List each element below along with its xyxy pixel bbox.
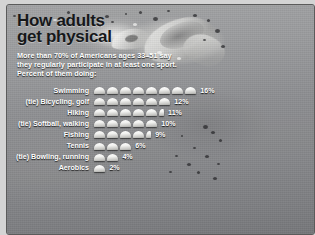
swim-cap-icon xyxy=(94,165,105,172)
swim-cap-icon xyxy=(120,109,131,116)
swim-cap-icon xyxy=(120,131,131,138)
swim-cap-icon xyxy=(94,120,105,127)
water-splash-dot xyxy=(153,17,158,21)
chart-row-value: 10% xyxy=(161,120,175,128)
chart-row: Hiking11% xyxy=(7,107,233,118)
water-splash-dot xyxy=(133,23,137,26)
chart-row: (tie) Bicycling, golf12% xyxy=(7,96,233,107)
water-splash-dot xyxy=(13,15,16,17)
water-splash-dot xyxy=(207,19,210,22)
chart-row: Fishing9% xyxy=(7,129,233,140)
poster-frame: How adults get physical More than 70% of… xyxy=(6,4,233,183)
chart-row-bar xyxy=(94,129,151,140)
swim-cap-icon xyxy=(94,143,105,150)
water-splash-dot xyxy=(203,39,206,41)
swim-cap-half-icon xyxy=(146,131,151,138)
chart-row: Swimming16% xyxy=(7,85,233,96)
swim-cap-icon xyxy=(185,87,196,94)
chart-row-bar xyxy=(94,85,196,96)
chart-row-label: Hiking xyxy=(7,109,94,117)
chart-row-label: Fishing xyxy=(7,131,94,139)
pictograph-chart: Swimming16%(tie) Bicycling, golf12%Hikin… xyxy=(7,85,233,174)
chart-row-bar xyxy=(94,163,105,174)
water-splash-dot xyxy=(193,14,197,17)
page-title: How adults get physical xyxy=(17,13,112,45)
swim-cap-icon xyxy=(94,131,105,138)
swim-cap-icon xyxy=(133,87,144,94)
water-splash-dot xyxy=(167,10,170,12)
chart-row-value: 16% xyxy=(200,87,214,95)
swim-cap-icon xyxy=(120,143,131,150)
chart-row-value: 2% xyxy=(109,164,119,172)
chart-row-value: 4% xyxy=(122,153,132,161)
swim-cap-icon xyxy=(107,109,118,116)
swim-cap-icon xyxy=(133,131,144,138)
water-splash-dot xyxy=(221,45,225,48)
chart-row: (tie) Softball, walking10% xyxy=(7,118,233,129)
swim-cap-icon xyxy=(120,87,131,94)
chart-row-bar xyxy=(94,141,131,152)
water-splash-dot xyxy=(213,177,217,180)
swim-cap-icon xyxy=(94,87,105,94)
chart-row-value: 6% xyxy=(135,142,145,150)
swim-cap-icon xyxy=(159,87,170,94)
chart-row-bar xyxy=(94,118,157,129)
swim-cap-icon xyxy=(107,131,118,138)
subtitle-text: More than 70% of Americans ages 33–51 sa… xyxy=(17,52,187,78)
swim-cap-icon xyxy=(120,120,131,127)
swim-cap-icon xyxy=(146,120,157,127)
swim-cap-icon xyxy=(120,98,131,105)
swim-cap-icon xyxy=(107,87,118,94)
swim-cap-icon xyxy=(159,98,170,105)
swim-cap-icon xyxy=(133,120,144,127)
swim-cap-icon xyxy=(146,87,157,94)
chart-row-label: (tie) Bowling, running xyxy=(7,153,94,161)
chart-row-label: (tie) Softball, walking xyxy=(7,120,94,128)
chart-row-value: 9% xyxy=(155,131,165,139)
chart-row-label: Aerobics xyxy=(7,164,94,172)
infographic-poster: How adults get physical More than 70% of… xyxy=(0,0,233,183)
swim-cap-icon xyxy=(107,143,118,150)
chart-row-bar xyxy=(94,96,170,107)
chart-row-label: (tie) Bicycling, golf xyxy=(7,98,94,106)
chart-row-label: Tennis xyxy=(7,142,94,150)
swim-cap-icon xyxy=(172,87,183,94)
chart-row: Tennis6% xyxy=(7,140,233,151)
chart-row-bar xyxy=(94,107,164,118)
chart-row-value: 12% xyxy=(174,98,188,106)
chart-row: Aerobics2% xyxy=(7,163,233,174)
swim-cap-icon xyxy=(107,98,118,105)
swim-cap-icon xyxy=(94,109,105,116)
swim-cap-icon xyxy=(94,98,105,105)
swim-cap-icon xyxy=(107,154,118,161)
chart-row: (tie) Bowling, running4% xyxy=(7,152,233,163)
swim-cap-icon xyxy=(146,109,157,116)
swim-cap-half-icon xyxy=(159,109,164,116)
swim-cap-icon xyxy=(146,98,157,105)
water-splash-dot xyxy=(125,13,127,15)
swim-cap-icon xyxy=(94,154,105,161)
chart-row-label: Swimming xyxy=(7,87,94,95)
chart-row-bar xyxy=(94,152,118,163)
swim-cap-icon xyxy=(133,109,144,116)
water-splash-dot xyxy=(139,11,142,14)
swim-cap-icon xyxy=(133,98,144,105)
water-splash-dot xyxy=(215,29,220,33)
chart-row-value: 11% xyxy=(168,109,182,117)
swim-cap-icon xyxy=(107,120,118,127)
